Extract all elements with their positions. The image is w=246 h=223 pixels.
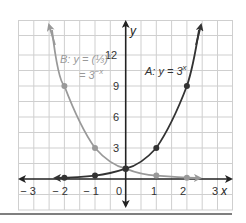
x-tick-1: 1 bbox=[151, 185, 157, 197]
curve-b-label: B: y = (⅓)x bbox=[60, 51, 113, 65]
y-tick-9: 9 bbox=[113, 80, 119, 92]
x-tick-m1: − 1 bbox=[83, 185, 99, 197]
x-tick-m3: − 3 bbox=[20, 185, 36, 197]
y-tick-6: 6 bbox=[113, 111, 119, 123]
y-axis-label: y bbox=[129, 24, 137, 38]
x-tick-2: 2 bbox=[180, 185, 186, 197]
exponential-graph: 12 9 6 3 − 3 − 2 − 1 0 1 2 3 y x A: y = … bbox=[0, 0, 246, 223]
curve-a-label: A: y = 3x bbox=[144, 63, 188, 77]
x-tick-0: 0 bbox=[116, 185, 122, 197]
x-tick-m2: − 2 bbox=[52, 185, 68, 197]
curve-b-label-line2: = 3−x bbox=[79, 67, 104, 81]
x-tick-3: 3 bbox=[212, 185, 218, 197]
x-axis-label: x bbox=[220, 184, 228, 198]
y-tick-3: 3 bbox=[113, 142, 119, 154]
